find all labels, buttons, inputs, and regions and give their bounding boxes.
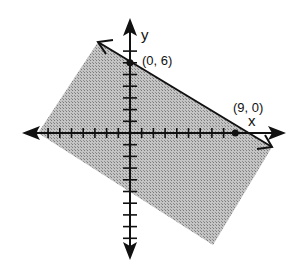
coordinate-graph — [0, 0, 298, 272]
point-9-0 — [232, 130, 239, 137]
x-axis-label: x — [248, 113, 256, 128]
point-label-0-6: (0, 6) — [142, 54, 172, 67]
shaded-region — [38, 42, 272, 245]
point-label-9-0: (9, 0) — [233, 101, 263, 114]
y-axis-label: y — [141, 27, 149, 42]
point-0-6 — [127, 59, 134, 66]
